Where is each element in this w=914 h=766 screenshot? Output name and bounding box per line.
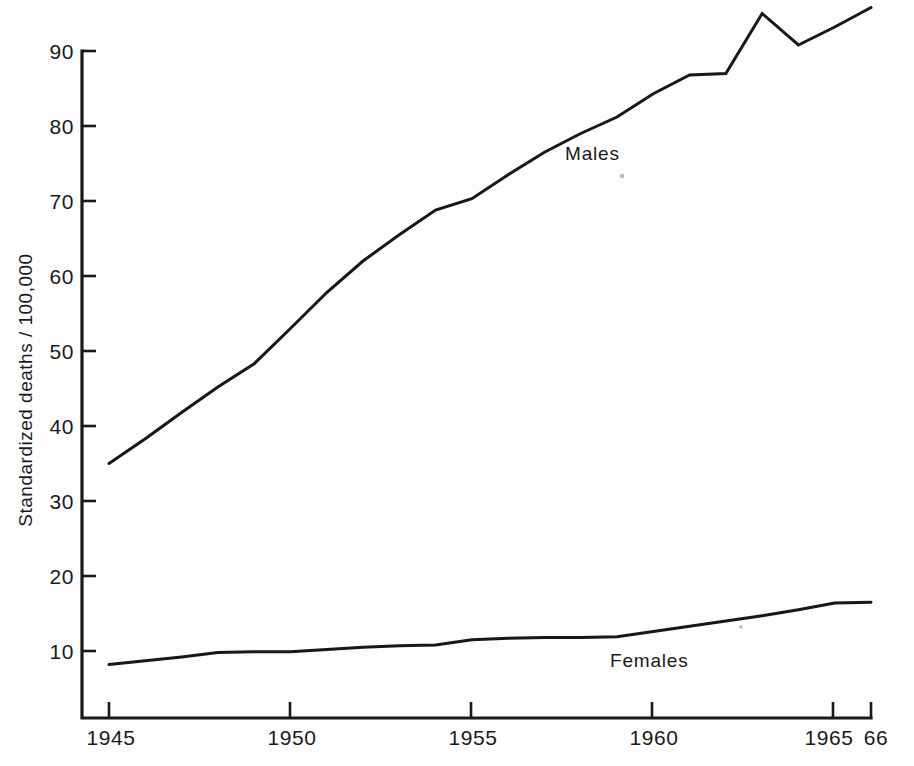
y-tick-label-80: 80 [49, 115, 74, 138]
series-line-females [109, 602, 871, 664]
scan-speck [620, 174, 624, 178]
x-tick-label-1966: 66 [864, 726, 889, 749]
x-axis-tick-labels: 1945 1950 1955 1960 1965 66 [86, 726, 888, 749]
y-tick-label-20: 20 [49, 565, 74, 588]
x-axis-ticks [109, 702, 871, 718]
y-tick-label-90: 90 [49, 40, 74, 63]
y-axis-ticks [82, 51, 96, 651]
scan-speck [739, 625, 743, 629]
chart-container: Standardized deaths / 100,000 90 80 70 6… [0, 0, 914, 766]
y-tick-label-50: 50 [49, 340, 74, 363]
x-tick-label-1950: 1950 [267, 726, 316, 749]
y-tick-label-40: 40 [49, 415, 74, 438]
series-label-females: Females [610, 650, 688, 671]
x-tick-label-1945: 1945 [86, 726, 135, 749]
series-label-males: Males [565, 143, 620, 164]
y-axis-tick-labels: 90 80 70 60 50 40 30 20 10 [49, 40, 74, 663]
y-tick-label-70: 70 [49, 190, 74, 213]
x-tick-label-1965: 1965 [804, 726, 853, 749]
y-axis-title: Standardized deaths / 100,000 [15, 253, 36, 526]
line-chart: Standardized deaths / 100,000 90 80 70 6… [0, 0, 914, 766]
series-line-males [109, 8, 871, 464]
y-tick-label-10: 10 [49, 640, 74, 663]
y-tick-label-30: 30 [49, 490, 74, 513]
x-tick-label-1960: 1960 [629, 726, 678, 749]
x-tick-label-1955: 1955 [448, 726, 497, 749]
y-tick-label-60: 60 [49, 265, 74, 288]
